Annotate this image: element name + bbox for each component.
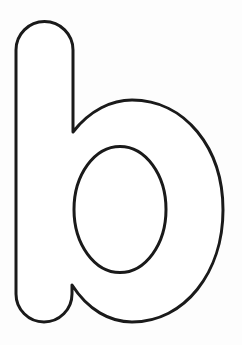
letter-canvas: b <box>0 0 242 345</box>
letter-b-counter <box>74 147 166 273</box>
letter-b-outline <box>0 0 242 345</box>
